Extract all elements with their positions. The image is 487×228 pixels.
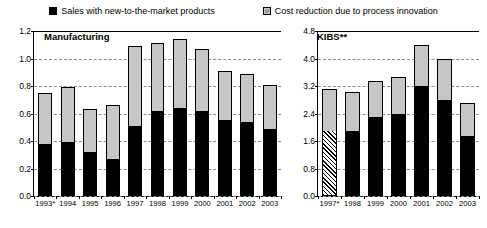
bar-segment-sales <box>368 117 382 196</box>
bar-segment-cost-reduction <box>61 87 75 142</box>
bar-slot <box>56 31 78 196</box>
bar-slot <box>433 31 456 196</box>
y-tick-mark-1.2 <box>31 31 34 32</box>
y-tick-mark-3.2 <box>315 86 318 87</box>
bar-segment-sales <box>83 152 97 196</box>
stacked-bar-1998[interactable] <box>345 92 359 196</box>
x-tick-mark <box>124 196 125 199</box>
x-axis-label-2002: 2002 <box>433 200 456 212</box>
y-axis-label-0.8: 0.8 <box>303 164 315 173</box>
bar-slot <box>259 31 281 196</box>
x-tick-mark <box>169 196 170 199</box>
bar-segment-sales <box>106 159 120 196</box>
x-axis-label-2003: 2003 <box>259 200 281 212</box>
x-tick-mark <box>259 196 260 199</box>
x-tick-mark <box>56 196 57 199</box>
stacked-bar-2003[interactable] <box>263 85 277 196</box>
stacked-bar-1997[interactable] <box>322 89 336 196</box>
grey-square-icon <box>263 7 271 15</box>
x-tick-mark <box>341 196 342 199</box>
stacked-bar-1994[interactable] <box>61 87 75 196</box>
plot-area-manufacturing: 1993*19941995199619971998199920002001200… <box>33 31 281 197</box>
bar-segment-sales <box>195 111 209 196</box>
bar-segment-cost-reduction <box>218 71 232 121</box>
stacked-bar-1997[interactable] <box>128 46 142 196</box>
bar-slot <box>191 31 213 196</box>
stacked-bar-2001[interactable] <box>218 71 232 196</box>
bar-group-kibs <box>318 31 479 196</box>
bar-segment-cost-reduction <box>414 45 428 86</box>
x-axis-label-1995: 1995 <box>79 200 101 212</box>
x-tick-mark <box>281 196 282 199</box>
stacked-bar-1996[interactable] <box>106 105 120 196</box>
x-axis-label-1998: 1998 <box>341 200 364 212</box>
bar-segment-cost-reduction <box>437 59 451 100</box>
stacked-bar-2000[interactable] <box>195 49 209 196</box>
y-tick-mark-2.4 <box>315 114 318 115</box>
x-axis-label-1997: 1997 <box>124 200 146 212</box>
y-axis-label-0.4: 0.4 <box>19 137 31 146</box>
x-axis-label-2002: 2002 <box>236 200 258 212</box>
y-axis-label-2.4: 2.4 <box>303 109 315 118</box>
figure-chart-innovation-indicators: Sales with new-to-the-market products Co… <box>0 0 487 228</box>
bar-slot <box>410 31 433 196</box>
plot-area-kibs: 1997*199819992000200120022003 0.00.81.62… <box>317 31 479 197</box>
x-axis-label-2003: 2003 <box>456 200 479 212</box>
panel-kibs: KIBS** 1997*199819992000200120022003 0.0… <box>287 25 487 221</box>
x-axis-label-1993: 1993* <box>34 200 56 212</box>
stacked-bar-2000[interactable] <box>391 77 405 196</box>
bar-segment-cost-reduction <box>263 85 277 129</box>
y-tick-mark-0.6 <box>31 114 34 115</box>
bar-slot <box>318 31 341 196</box>
bar-segment-sales <box>240 122 254 196</box>
x-axis-label-2000: 2000 <box>387 200 410 212</box>
x-axis-labels-manufacturing: 1993*19941995199619971998199920002001200… <box>34 200 281 212</box>
y-tick-mark-0.2 <box>31 169 34 170</box>
stacked-bar-1993[interactable] <box>38 93 52 196</box>
legend-item-sales: Sales with new-to-the-market products <box>49 7 215 16</box>
stacked-bar-1999[interactable] <box>173 39 187 196</box>
stacked-bar-1998[interactable] <box>151 43 165 196</box>
y-tick-mark-0.8 <box>31 86 34 87</box>
x-tick-mark <box>146 196 147 199</box>
bar-slot <box>236 31 258 196</box>
bar-segment-sales <box>437 100 451 196</box>
stacked-bar-2002[interactable] <box>437 59 451 197</box>
stacked-bar-2001[interactable] <box>414 45 428 196</box>
stacked-bar-2002[interactable] <box>240 74 254 196</box>
y-tick-mark-1.6 <box>315 141 318 142</box>
stacked-bar-2003[interactable] <box>460 103 474 196</box>
x-tick-mark <box>236 196 237 199</box>
x-axis-label-1999: 1999 <box>169 200 191 212</box>
stacked-bar-1995[interactable] <box>83 109 97 196</box>
bar-group-manufacturing <box>34 31 281 196</box>
stacked-bar-1999[interactable] <box>368 81 382 196</box>
bar-segment-cost-reduction <box>106 105 120 159</box>
bar-segment-sales <box>61 142 75 196</box>
x-axis-label-1999: 1999 <box>364 200 387 212</box>
bar-slot <box>214 31 236 196</box>
y-axis-label-1.2: 1.2 <box>19 27 31 36</box>
bar-slot <box>387 31 410 196</box>
x-tick-mark <box>410 196 411 199</box>
y-axis-label-4.0: 4.0 <box>303 54 315 63</box>
bar-slot <box>124 31 146 196</box>
legend-item-cost-reduction: Cost reduction due to process innovation <box>263 7 438 16</box>
chart-legend: Sales with new-to-the-market products Co… <box>0 3 487 19</box>
panel-title-kibs: KIBS** <box>317 31 347 42</box>
panel-title-manufacturing: Manufacturing <box>44 31 109 42</box>
x-tick-mark <box>34 196 35 199</box>
black-square-icon <box>49 7 57 15</box>
bar-segment-cost-reduction <box>345 92 359 131</box>
x-axis-label-1994: 1994 <box>56 200 78 212</box>
bar-slot <box>101 31 123 196</box>
y-axis-label-1.6: 1.6 <box>303 137 315 146</box>
bar-segment-sales <box>414 86 428 196</box>
bar-segment-sales <box>345 131 359 196</box>
bar-segment-cost-reduction <box>460 103 474 136</box>
bar-segment-cost-reduction <box>240 74 254 122</box>
y-axis-label-0.8: 0.8 <box>19 82 31 91</box>
bar-segment-cost-reduction <box>38 93 52 144</box>
x-tick-mark <box>456 196 457 199</box>
gridline-0.0 <box>34 196 281 197</box>
